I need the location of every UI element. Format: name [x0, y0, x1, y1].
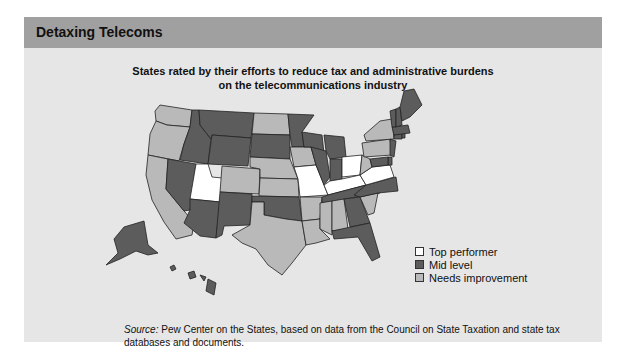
map-legend: Top performer Mid level Needs improvemen…: [415, 245, 527, 284]
state-sd: [250, 134, 290, 159]
state-nd: [252, 113, 290, 135]
state-ut: [190, 164, 222, 202]
state-ar: [300, 197, 322, 221]
source-label: Source:: [124, 324, 158, 335]
legend-swatch-needs: [415, 273, 424, 282]
state-pa: [362, 139, 392, 157]
state-in: [330, 159, 342, 181]
us-map: [24, 17, 602, 342]
state-me: [400, 89, 422, 121]
state-co: [220, 166, 260, 194]
source-text: Pew Center on the States, based on data …: [124, 324, 560, 348]
state-ak: [106, 221, 158, 265]
legend-item-needs: Needs improvement: [415, 271, 527, 284]
legend-item-mid: Mid level: [415, 258, 527, 271]
figure-panel: Detaxing Telecoms States rated by their …: [24, 17, 602, 342]
legend-label-top: Top performer: [429, 246, 497, 258]
source-note: Source: Pew Center on the States, based …: [124, 323, 564, 349]
legend-swatch-top: [415, 247, 424, 256]
state-wy: [208, 135, 251, 166]
state-ny: [364, 119, 394, 141]
state-nj: [390, 139, 396, 157]
state-ks: [259, 178, 299, 197]
state-mi: [324, 135, 346, 159]
legend-label-needs: Needs improvement: [429, 272, 527, 284]
state-oh: [342, 155, 362, 177]
legend-label-mid: Mid level: [429, 259, 472, 271]
legend-swatch-mid: [415, 260, 424, 269]
state-hi: [170, 265, 216, 295]
legend-item-top: Top performer: [415, 245, 527, 258]
state-de: [388, 157, 392, 165]
state-md: [370, 157, 388, 167]
state-mt: [199, 110, 254, 139]
state-ms: [320, 201, 332, 235]
